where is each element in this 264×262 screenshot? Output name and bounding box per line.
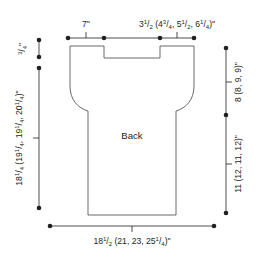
top-dim-dot-shoulder-left xyxy=(102,36,107,41)
bottom-dim-dot-left xyxy=(48,224,53,229)
dim-label-neck-depth: 3/4" xyxy=(17,43,28,55)
schematic-diagram: Back 7" 31/2 (43/4, 51/2, 61/4)" 3/4" 18… xyxy=(0,0,264,262)
dim-label-neck-width: 31/2 (43/4, 51/2, 61/4)" xyxy=(139,19,215,30)
dim-label-body-length: 11 (12, 11, 12)" xyxy=(233,135,243,193)
dim-label-armhole-depth: 8 (8, 9, 9)" xyxy=(233,62,243,102)
total-length-dot-bottom xyxy=(37,206,42,211)
top-dim-dot-right xyxy=(192,36,197,41)
dim-label-total-length: 181/4 (191/4, 191/4, 201/4)" xyxy=(14,90,25,185)
top-dim-dot-left xyxy=(66,36,71,41)
dim-label-bottom-width: 181/2 (21, 23, 251/4)" xyxy=(93,236,170,247)
neck-depth-dot-bottom xyxy=(37,55,42,60)
top-dim-dot-shoulder-right xyxy=(158,36,163,41)
bottom-dim-dot-right xyxy=(212,224,217,229)
dim-label-shoulder-width: 7" xyxy=(82,19,90,29)
body-length-dot-bottom xyxy=(224,211,229,216)
total-length-dot-top xyxy=(37,66,42,71)
armhole-depth-dot-top xyxy=(224,46,229,51)
garment-schematic-svg: Back 7" 31/2 (43/4, 51/2, 61/4)" 3/4" 18… xyxy=(0,0,264,262)
neck-depth-dot-top xyxy=(37,38,42,43)
piece-label-back: Back xyxy=(121,130,143,141)
